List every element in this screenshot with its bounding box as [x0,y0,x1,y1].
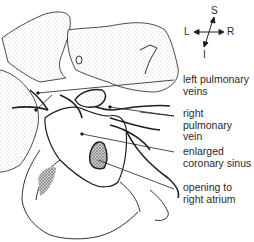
left-atrial-appendage [75,89,105,107]
label-enlarged-coronary-sinus: enlarged coronary sinus [183,146,251,169]
compass-inferior: I [203,49,206,60]
left-ventricle-stipple [38,167,56,196]
compass-right: R [227,26,234,37]
label-left-pulmonary-veins: left pulmonary veins [183,74,249,97]
compass-superior: S [211,5,218,16]
label-opening-to-right-atrium: opening to right atrium [183,182,236,205]
upper-lobe-left [2,12,70,82]
orientation-compass [194,17,224,47]
label-right-pulmonary-vein: right pulmonary vein [183,108,232,143]
left-lobe-outline [0,70,39,172]
compass-left: L [184,26,190,37]
upper-lobe-right [67,23,178,92]
